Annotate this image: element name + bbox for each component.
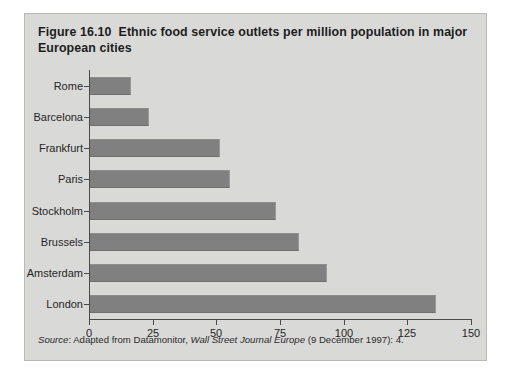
source-label: Source <box>38 334 68 345</box>
x-axis-tick <box>344 320 345 325</box>
bar-brussels <box>90 233 299 251</box>
bar-fill <box>90 108 149 126</box>
bar-fill <box>90 139 220 157</box>
figure-title: Figure 16.10Ethnic food service outlets … <box>38 25 474 56</box>
bar-amsterdam <box>90 264 327 282</box>
y-axis-tick <box>84 86 89 87</box>
figure-panel: Figure 16.10Ethnic food service outlets … <box>24 13 487 361</box>
x-axis-tick <box>471 320 472 325</box>
source-text-after: (9 December 1997): 4. <box>305 334 404 345</box>
bar-paris <box>90 170 230 188</box>
bar-london <box>90 295 436 313</box>
y-axis-tick <box>84 242 89 243</box>
y-axis-tick <box>84 273 89 274</box>
bar-fill <box>90 295 436 313</box>
category-label-stockholm: Stockholm <box>32 202 83 220</box>
bar-rome <box>90 77 131 95</box>
bar-fill <box>90 77 131 95</box>
y-axis-tick <box>84 179 89 180</box>
x-axis-tick <box>407 320 408 325</box>
source-text-before: Adapted from Datamonitor, <box>73 334 190 345</box>
bar-fill <box>90 202 276 220</box>
bar-fill <box>90 264 327 282</box>
category-label-brussels: Brussels <box>41 233 83 251</box>
bar-fill <box>90 170 230 188</box>
category-label-barcelona: Barcelona <box>33 108 83 126</box>
y-axis-tick <box>84 211 89 212</box>
figure-number: Figure 16.10 <box>38 25 112 39</box>
y-axis-tick <box>84 304 89 305</box>
plot-region: 0255075100125150 <box>89 70 472 320</box>
bar-chart: RomeBarcelonaFrankfurtParisStockholmBrus… <box>25 70 488 328</box>
category-label-paris: Paris <box>58 170 83 188</box>
bar-stockholm <box>90 202 276 220</box>
x-axis-tick <box>216 320 217 325</box>
bar-fill <box>90 233 299 251</box>
x-axis-tick <box>89 320 90 325</box>
category-label-london: London <box>46 295 83 313</box>
y-axis-tick <box>84 148 89 149</box>
category-label-amsterdam: Amsterdam <box>27 264 83 282</box>
source-publication: Wall Street Journal Europe <box>191 334 305 345</box>
y-axis-tick <box>84 117 89 118</box>
x-axis-tick <box>280 320 281 325</box>
x-axis-tick <box>153 320 154 325</box>
category-label-frankfurt: Frankfurt <box>39 139 83 157</box>
bar-barcelona <box>90 108 149 126</box>
category-axis-labels: RomeBarcelonaFrankfurtParisStockholmBrus… <box>25 70 83 320</box>
source-note: Source: Adapted from Datamonitor, Wall S… <box>38 334 474 346</box>
bar-frankfurt <box>90 139 220 157</box>
category-label-rome: Rome <box>54 77 83 95</box>
